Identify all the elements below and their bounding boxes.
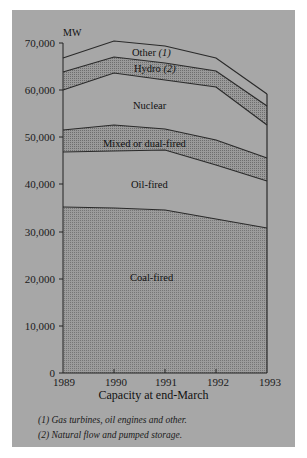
x-tick-1992: 1992 (207, 376, 229, 388)
y-tick-30000: 30,000 (25, 226, 56, 238)
area-mixed-dual-fired (63, 125, 267, 181)
label-coal-fired: Coal-fired (130, 272, 174, 283)
label-nuclear: Nuclear (133, 100, 167, 111)
y-tick-50000: 50,000 (25, 131, 56, 143)
footnote-2: (2) Natural flow and pumped storage. (38, 430, 182, 440)
area-coal-fired (63, 207, 267, 373)
footnote-1: (1) Gas turbines, oil engines and other. (38, 415, 187, 425)
y-tick-10000: 10,000 (25, 320, 56, 332)
x-axis-title: Capacity at end-March (0, 388, 307, 403)
x-tick-1993: 1993 (259, 376, 282, 388)
y-tick-20000: 20,000 (25, 273, 56, 285)
x-tick-1990: 1990 (105, 376, 128, 388)
y-axis-unit: MW (63, 27, 81, 38)
y-tick-60000: 60,000 (25, 84, 56, 96)
label-mixed-dual-fired: Mixed or dual-fired (103, 138, 187, 149)
label-oil-fired: Oil-fired (131, 179, 168, 190)
label-other: Other (1) (132, 47, 171, 59)
x-tick-1991: 1991 (155, 376, 177, 388)
y-tick-70000: 70,000 (25, 37, 56, 49)
x-tick-1989: 1989 (53, 376, 76, 388)
y-tick-40000: 40,000 (25, 178, 56, 190)
label-hydro: Hydro (2) (134, 63, 176, 75)
